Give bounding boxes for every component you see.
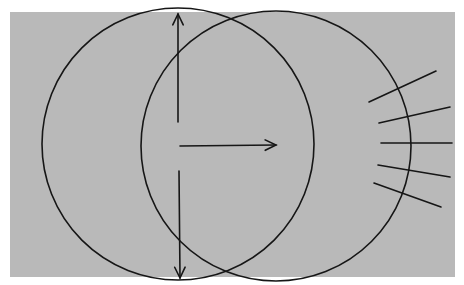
vertical-arrow-down — [175, 171, 185, 278]
vertical-arrow-up — [173, 14, 183, 122]
horizontal-arrow — [180, 140, 276, 150]
diagram-canvas — [0, 0, 464, 285]
ray-line-5 — [374, 183, 441, 207]
ray-line-2 — [379, 107, 450, 123]
ray-line-4 — [378, 165, 450, 177]
